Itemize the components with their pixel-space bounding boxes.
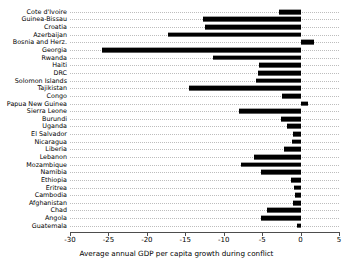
bar-row: Lebanon: [70, 153, 339, 161]
category-label: Tajikistan: [37, 85, 70, 91]
category-label: Rwanda: [41, 54, 70, 60]
category-label: Chad: [51, 207, 71, 213]
bar-row: Guatemala: [70, 222, 339, 230]
category-label: Haiti: [52, 62, 70, 68]
bar-row: Burundi: [70, 115, 339, 123]
bar: [291, 178, 300, 183]
bar: [293, 132, 301, 137]
category-label: Congo: [47, 93, 70, 99]
gdp-growth-during-conflict-chart: Cote d'IvoireGuinea-BissauCroatiaAzerbai…: [0, 0, 353, 267]
category-label: Uganda: [42, 123, 70, 129]
category-label: Croatia: [44, 24, 70, 30]
x-axis-tick-label: -5: [259, 237, 266, 244]
bar: [292, 139, 300, 144]
category-label: Lebanon: [40, 154, 70, 160]
x-axis-title: Average annual GDP per capita growth dur…: [0, 250, 353, 257]
x-axis-tick-label: -25: [103, 237, 114, 244]
bar-row: Liberia: [70, 146, 339, 154]
bar-row: Congo: [70, 92, 339, 100]
x-axis-tick-label: -30: [64, 237, 75, 244]
bar-row: Tajikistan: [70, 84, 339, 92]
bar: [261, 216, 301, 221]
category-label: Burundi: [42, 116, 70, 122]
bar-row: Cambodia: [70, 191, 339, 199]
category-label: Georgia: [42, 47, 70, 53]
category-label: Bosnia and Herz.: [13, 39, 70, 45]
category-label: DRC: [53, 70, 70, 76]
category-label: Liberia: [45, 146, 70, 152]
bar-row: DRC: [70, 69, 339, 77]
bar: [301, 101, 309, 106]
bar-row: Uganda: [70, 123, 339, 131]
bar-row: Ethiopia: [70, 176, 339, 184]
category-label: Papua New Guinea: [7, 100, 70, 106]
bar: [261, 170, 301, 175]
x-axis-tick-label: -15: [180, 237, 191, 244]
bar-row: Eritrea: [70, 184, 339, 192]
bar: [279, 9, 301, 14]
bar-row: Solomon Islands: [70, 77, 339, 85]
category-label: Mozambique: [26, 161, 70, 167]
x-axis-line: [70, 232, 339, 233]
bar-row: Nicaragua: [70, 138, 339, 146]
bar: [168, 32, 300, 37]
bar: [293, 200, 301, 205]
bar: [284, 147, 301, 152]
bar: [239, 109, 300, 114]
bar: [294, 185, 301, 190]
gridline: [70, 104, 339, 105]
bar: [259, 63, 301, 68]
category-label: Afghanistan: [29, 200, 70, 206]
category-label: Guinea-Bissau: [21, 16, 70, 22]
plot-area: Cote d'IvoireGuinea-BissauCroatiaAzerbai…: [70, 8, 339, 230]
category-label: Solomon Islands: [15, 77, 70, 83]
category-label: Nicaragua: [34, 139, 70, 145]
category-label: Ethiopia: [41, 177, 70, 183]
bar: [295, 193, 300, 198]
bar: [241, 162, 301, 167]
bar-row: Sierra Leone: [70, 107, 339, 115]
bar-row: Papua New Guinea: [70, 100, 339, 108]
x-axis-tick-label: -10: [218, 237, 229, 244]
bar: [301, 40, 314, 45]
bar: [254, 155, 300, 160]
bar: [297, 223, 300, 228]
category-label: Guatemala: [32, 223, 70, 229]
bar-row: Namibia: [70, 168, 339, 176]
bar-row: Rwanda: [70, 54, 339, 62]
category-label: Cambodia: [35, 192, 70, 198]
category-label: Angola: [45, 215, 70, 221]
bar: [258, 71, 301, 76]
bar-row: Cote d'Ivoire: [70, 8, 339, 16]
bar-row: Angola: [70, 214, 339, 222]
bar: [189, 86, 300, 91]
bar: [282, 93, 300, 98]
category-label: Namibia: [41, 169, 70, 175]
bar: [205, 25, 301, 30]
gridline: [70, 42, 339, 43]
bar-row: Haiti: [70, 61, 339, 69]
x-axis-tick-label: -20: [141, 237, 152, 244]
category-label: El Salvador: [31, 131, 70, 137]
bar-row: Georgia: [70, 46, 339, 54]
x-axis-tick-label: 5: [337, 237, 341, 244]
bar: [256, 78, 301, 83]
bar: [102, 48, 300, 53]
category-label: Eritrea: [46, 184, 70, 190]
bar: [213, 55, 301, 60]
bar: [203, 17, 301, 22]
bar-row: Chad: [70, 207, 339, 215]
bar: [287, 124, 301, 129]
category-label: Cote d'Ivoire: [27, 9, 70, 15]
bar: [267, 208, 301, 213]
category-label: Sierra Leone: [27, 108, 70, 114]
bar-row: Croatia: [70, 23, 339, 31]
x-axis-tick-label: 0: [298, 237, 302, 244]
bar-row: Guinea-Bissau: [70, 16, 339, 24]
bar-row: Bosnia and Herz.: [70, 39, 339, 47]
bar-row: Afghanistan: [70, 199, 339, 207]
category-label: Azerbaijan: [33, 32, 70, 38]
bar: [281, 116, 301, 121]
bar-row: Mozambique: [70, 161, 339, 169]
bar-row: Azerbaijan: [70, 31, 339, 39]
